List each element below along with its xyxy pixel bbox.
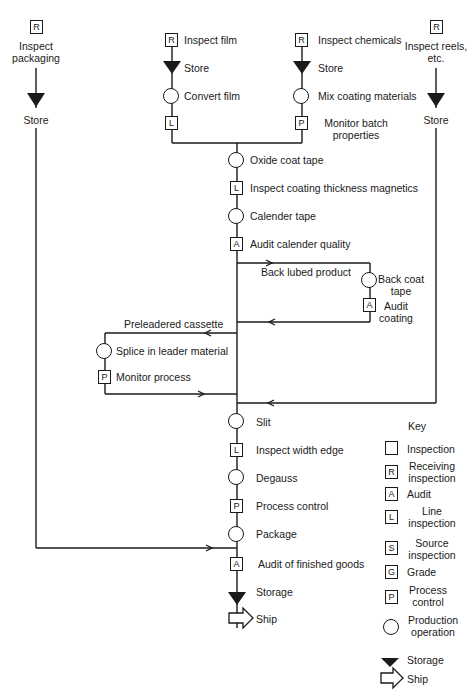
production-operation-icon [361, 272, 377, 288]
storage-icon [228, 592, 246, 605]
key-process-control-label: Process control [404, 584, 452, 608]
key-audit-label: Audit [407, 488, 431, 500]
key-line-inspection-icon: L [385, 510, 398, 524]
audit-calender-label: Audit calender quality [250, 238, 350, 250]
production-operation-icon [293, 88, 309, 104]
key-storage-label: Storage [407, 654, 444, 666]
inspect-reels-label: Inspect reels, etc. [400, 40, 472, 64]
monitor-process-label: Monitor process [116, 371, 191, 383]
process-control-icon: P [98, 370, 111, 384]
receiving-inspection-icon: R [295, 33, 308, 47]
storage-icon [27, 93, 45, 107]
key-title: Key [408, 420, 426, 432]
back-lubed-label: Back lubed product [261, 266, 351, 278]
key-audit-icon: A [385, 487, 398, 501]
key-process-control-icon: P [385, 590, 398, 604]
film-store-label: Store [184, 62, 209, 74]
ship-label: Ship [256, 613, 277, 625]
production-operation-icon [96, 343, 112, 359]
storage-label: Storage [256, 586, 293, 598]
inspect-film-label: Inspect film [184, 34, 237, 46]
key-grade-label: Grade [407, 566, 436, 578]
key-inspection-icon [385, 441, 398, 455]
process-control-icon: P [295, 116, 308, 130]
packaging-store-label: Store [16, 114, 56, 126]
convert-film-label: Convert film [184, 90, 240, 102]
key-ship-icon [381, 668, 403, 688]
key-inspection-label: Inspection [407, 443, 455, 455]
process-control-icon: P [230, 499, 243, 513]
ship-icon [229, 608, 253, 628]
production-operation-icon [163, 88, 179, 104]
production-operation-icon [228, 469, 244, 485]
audit-icon: A [230, 557, 243, 571]
audit-icon: A [363, 298, 376, 312]
production-operation-icon [228, 208, 244, 224]
line-inspection-icon: L [165, 116, 178, 130]
key-production-operation-label: Production operation [404, 614, 462, 638]
reels-store-label: Store [416, 114, 456, 126]
key-source-label: Source inspection [404, 537, 460, 561]
line-inspection-icon: L [230, 181, 243, 195]
preleadered-label: Preleadered cassette [124, 318, 223, 330]
receiving-inspection-icon: R [30, 20, 43, 34]
production-operation-icon [228, 413, 244, 429]
receiving-inspection-icon: R [430, 20, 443, 34]
oxide-coat-label: Oxide coat tape [250, 154, 324, 166]
key-storage-icon [381, 658, 399, 667]
key-receiving-label: Receiving inspection [404, 460, 460, 484]
process-control-label: Process control [256, 500, 328, 512]
inspect-width-label: Inspect width edge [256, 444, 344, 456]
audit-icon: A [230, 237, 243, 251]
inspect-chemicals-label: Inspect chemicals [318, 34, 401, 46]
storage-icon [293, 61, 311, 74]
receiving-inspection-icon: R [165, 33, 178, 47]
production-operation-icon [228, 152, 244, 168]
back-coat-label: Back coat tape [376, 273, 426, 297]
slit-label: Slit [256, 416, 271, 428]
key-receiving-icon: R [385, 465, 398, 479]
audit-finished-label: Audit of finished goods [258, 558, 364, 570]
package-label: Package [256, 528, 297, 540]
line-inspection-icon: L [230, 443, 243, 457]
degauss-label: Degauss [256, 472, 297, 484]
key-grade-icon: G [385, 565, 398, 579]
calender-tape-label: Calender tape [250, 210, 316, 222]
mix-coating-label: Mix coating materials [318, 90, 417, 102]
key-ship-label: Ship [407, 673, 428, 685]
splice-leader-label: Splice in leader material [116, 345, 228, 357]
key-production-operation-icon [383, 619, 399, 635]
chemicals-store-label: Store [318, 62, 343, 74]
key-source-icon: S [385, 541, 398, 555]
monitor-batch-label: Monitor batch properties [316, 117, 396, 141]
inspect-packaging-label: Inspect packaging [6, 40, 66, 64]
storage-icon [427, 93, 445, 107]
production-operation-icon [228, 526, 244, 542]
inspect-coating-label: Inspect coating thickness magnetics [250, 182, 418, 194]
key-line-inspection-label: Line inspection [404, 505, 460, 529]
storage-icon [163, 61, 181, 74]
audit-coating-label: Audit coating [376, 300, 416, 324]
